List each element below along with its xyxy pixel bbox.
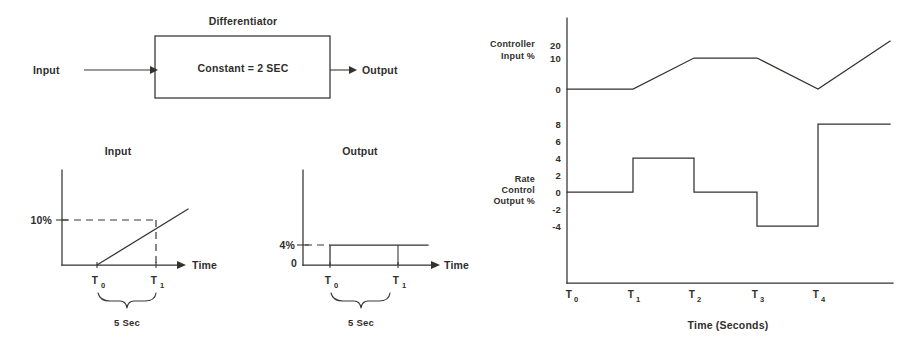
input-plot-tick-t1-sub: 1: [160, 281, 164, 290]
input-plot-ramp-trace: [97, 209, 188, 265]
input-plot-tick-t1: T: [151, 275, 157, 286]
rate-control-tick-8: 8: [556, 119, 561, 130]
response-chart-xtick-t2: T: [689, 289, 695, 300]
output-plot-title: Output: [342, 145, 378, 157]
block-input-arrowhead: [150, 66, 158, 74]
controller-input-tick-20: 20: [550, 40, 561, 51]
response-chart-x-axis-label: Time (Seconds): [688, 319, 769, 331]
output-plot-tick-t0-sub: 0: [334, 281, 338, 290]
response-chart-xtick-t0: T: [566, 289, 572, 300]
input-plot-y-label: 10%: [30, 214, 52, 226]
output-plot-tick-t1-sub: 1: [402, 281, 406, 290]
block-diagram-title: Differentiator: [209, 15, 278, 27]
technical-figure: Differentiator Constant = 2 SEC Input Ou…: [0, 0, 899, 344]
input-plot-tick-t0: T: [92, 275, 98, 286]
response-chart-xtick-t0-sub: 0: [574, 295, 578, 304]
block-output-arrowhead: [349, 66, 357, 74]
rate-control-axis-label-line3: Output %: [493, 196, 535, 206]
output-plot-x-axis-label: Time: [444, 259, 469, 271]
rate-control-tick-6: 6: [556, 136, 561, 147]
response-chart-xtick-t3-sub: 3: [760, 295, 764, 304]
rate-control-output-trace: [567, 124, 890, 226]
rate-control-tick-0: 0: [556, 187, 561, 198]
response-chart-xtick-t1: T: [628, 289, 634, 300]
rate-control-tick-neg2: -2: [552, 204, 561, 215]
input-plot-x-arrowhead: [177, 261, 186, 269]
response-chart-xtick-t4-sub: 4: [821, 295, 826, 304]
block-input-label: Input: [33, 64, 60, 76]
output-plot-x-arrowhead: [431, 261, 440, 269]
rate-control-tick-neg4: -4: [552, 221, 561, 232]
controller-input-axis-label-line1: Controller: [490, 39, 535, 49]
output-plot-tick-t1: T: [393, 275, 399, 286]
figure-root: Differentiator Constant = 2 SEC Input Ou…: [0, 0, 899, 344]
output-plot-brace-label: 5 Sec: [348, 317, 374, 328]
output-plot-y-label: 4%: [279, 239, 295, 251]
block-output-label: Output: [362, 64, 398, 76]
controller-input-tick-10: 10: [550, 53, 561, 64]
block-diagram: Differentiator Constant = 2 SEC Input Ou…: [33, 15, 398, 98]
input-plot-brace-label: 5 Sec: [114, 317, 140, 328]
rate-control-axis-label-line1: Rate: [515, 174, 535, 184]
input-plot-title: Input: [105, 145, 132, 157]
output-plot-y-zero-label: 0: [291, 257, 297, 269]
response-chart: Controller Input % 20 10 0 Rate Control …: [490, 18, 893, 331]
input-plot-tick-t0-sub: 0: [101, 281, 105, 290]
controller-input-tick-0: 0: [556, 84, 561, 95]
input-plot: Input Time 10% T 0 T 1 5 Sec: [30, 145, 217, 328]
controller-input-trace: [567, 41, 890, 89]
output-plot-tick-t0: T: [325, 275, 331, 286]
output-plot-brace: [331, 293, 390, 308]
response-chart-xtick-t1-sub: 1: [636, 295, 640, 304]
response-chart-xtick-t3: T: [752, 289, 758, 300]
rate-control-tick-4: 4: [556, 153, 562, 164]
output-plot-pulse-trace: [330, 245, 428, 265]
rate-control-axis-label-line2: Control: [502, 185, 535, 195]
rate-control-tick-2: 2: [556, 170, 561, 181]
output-plot: Output Time 4% 0 T 0 T 1 5 Sec: [279, 145, 469, 328]
response-chart-xtick-t2-sub: 2: [697, 295, 701, 304]
controller-input-axis-label-line2: Input %: [501, 51, 535, 61]
input-plot-brace: [98, 293, 156, 308]
differentiator-constant-text: Constant = 2 SEC: [197, 62, 288, 74]
input-plot-x-axis-label: Time: [192, 259, 217, 271]
response-chart-xtick-t4: T: [813, 289, 819, 300]
